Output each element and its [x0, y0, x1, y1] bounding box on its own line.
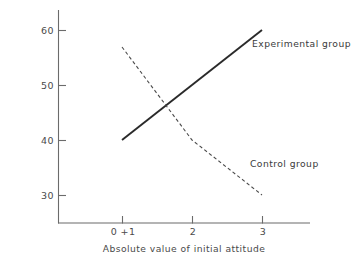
- y-tick-label-40: 40: [24, 135, 54, 146]
- x-tick-label-3: 3: [248, 226, 278, 237]
- y-tick-label-60: 60: [24, 25, 54, 36]
- series-label-control-group: Control group: [250, 158, 319, 169]
- series-experimental-group: [122, 30, 262, 140]
- series-control-group: [122, 47, 262, 195]
- x-tick-label-2: 2: [178, 226, 208, 237]
- x-axis-title: Absolute value of initial attitude: [58, 243, 310, 254]
- x-tick-label-0-plus-1: 0 +1: [99, 226, 147, 237]
- y-tick-label-50: 50: [24, 80, 54, 91]
- y-tick-label-30: 30: [24, 190, 54, 201]
- series-label-experimental-group: Experimental group: [252, 38, 351, 49]
- chart-figure: 60 50 40 30 0 +1 2 3 Percent stable posi…: [0, 0, 356, 262]
